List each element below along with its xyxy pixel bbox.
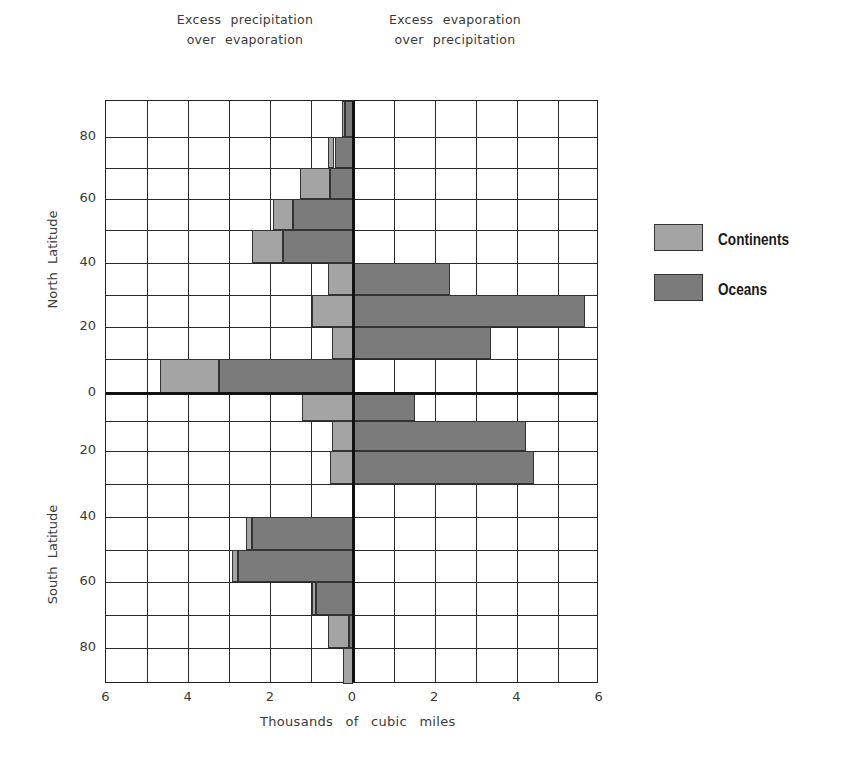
y-tick-label-north: 40 [66,254,96,269]
x-tick-label: 0 [342,689,362,704]
continent-bar [330,451,353,484]
ocean-bar [353,421,526,451]
continent-bar [328,615,349,648]
continent-bar [342,101,345,137]
y-tick-label-south: 40 [66,508,96,523]
y-axis-label-south: South Latitude [45,505,60,605]
continent-bar [160,359,220,393]
y-tick-label-north: 20 [66,318,96,333]
ocean-bar [353,327,491,359]
legend-swatch-continents [654,224,703,251]
continent-bar [332,327,353,359]
header-right-line2: over precipitation [345,30,565,50]
x-tick-label: 6 [589,689,609,704]
header-left-line1: Excess precipitation [135,10,355,30]
x-tick-label: 6 [95,689,115,704]
ocean-bar [353,295,585,327]
y-axis-label-north: North Latitude [45,210,60,310]
header-right-line1: Excess evaporation [345,10,565,30]
continent-bar [232,550,238,582]
header-right: Excess evaporation over precipitation [345,10,565,50]
x-tick-label: 2 [260,689,280,704]
continent-bar [312,582,316,615]
y-tick-label-north: 80 [66,128,96,143]
y-tick-label-north: 0 [66,384,96,399]
legend-label-oceans: Oceans [718,281,767,299]
ocean-bar [330,168,353,199]
continent-bar [312,295,353,327]
ocean-bar [283,230,353,263]
ocean-bar [353,393,415,421]
x-tick-label: 4 [178,689,198,704]
ocean-bar [353,451,534,484]
ocean-bar [335,137,353,168]
ocean-bar [238,550,353,582]
y-tick-label-north: 60 [66,190,96,205]
ocean-bar [219,359,353,393]
x-tick-label: 4 [506,689,526,704]
plot-area [105,100,598,683]
ocean-bar [316,582,353,615]
ocean-bar [252,517,353,550]
continent-bar [328,137,334,168]
legend-swatch-oceans [654,274,703,301]
continent-bar [332,421,353,451]
continent-bar [273,199,294,230]
x-axis-label: Thousands of cubic miles [260,714,456,729]
continent-bar [252,230,283,263]
equator-axis [106,392,597,395]
continent-bar [328,263,353,295]
ocean-bar [293,199,353,230]
y-tick-label-south: 60 [66,573,96,588]
header-left: Excess precipitation over evaporation [135,10,355,50]
x-tick-label: 2 [424,689,444,704]
legend-label-continents: Continents [718,231,789,249]
y-tick-label-south: 20 [66,442,96,457]
y-tick-label-south: 80 [66,639,96,654]
header-left-line2: over evaporation [135,30,355,50]
ocean-bar [353,263,450,295]
continent-bar [246,517,252,550]
continent-bar [300,168,331,199]
continent-bar [302,393,353,421]
